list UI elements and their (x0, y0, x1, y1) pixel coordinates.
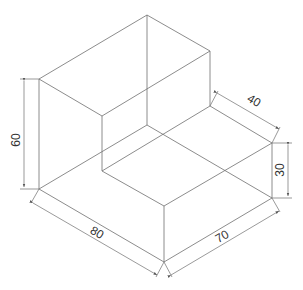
dimension-80: 80 (31, 189, 164, 277)
dimension-30: 30 (272, 143, 292, 198)
dimension-label-80: 80 (88, 223, 107, 242)
dimension-label-40: 40 (245, 91, 264, 110)
isometric-drawing: 60 80 70 40 30 (0, 0, 303, 290)
dimension-label-70: 70 (213, 227, 232, 246)
dimension-70: 70 (164, 198, 280, 277)
model-edges (39, 15, 272, 262)
dimension-label-60: 60 (9, 133, 23, 147)
dimension-60: 60 (9, 79, 39, 189)
dimension-label-30: 30 (273, 163, 287, 177)
dimension-40: 40 (210, 91, 280, 143)
